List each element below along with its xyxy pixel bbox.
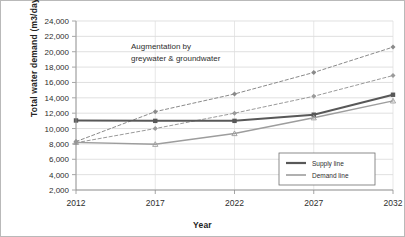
data-point-marker	[232, 91, 237, 96]
water-demand-chart: Total water demand (m3/day) 24,00022,000…	[0, 0, 405, 237]
y-tick-label: 20,000	[45, 48, 70, 57]
y-tick-label: 14,000	[45, 94, 70, 103]
chart-legend: Supply line Demand line	[279, 153, 375, 185]
y-tick-label: 16,000	[45, 78, 70, 87]
legend-frame	[279, 153, 375, 185]
data-point-marker	[153, 126, 158, 131]
x-tick-label: 2022	[225, 198, 244, 208]
y-tick-label: 24,000	[45, 17, 70, 26]
x-tick-label: 2017	[146, 198, 165, 208]
y-tick-label: 12,000	[45, 109, 70, 118]
x-tick-label: 2032	[384, 198, 403, 208]
data-point-marker	[391, 73, 396, 78]
annotation-line-2: greywater & groundwater	[131, 54, 221, 63]
plot-area: 24,00022,00020,00018,00016,00014,00012,0…	[1, 1, 405, 237]
x-axis-ticks: 20122017202220272032	[67, 198, 403, 208]
y-tick-label: 10,000	[45, 125, 70, 134]
x-axis-title: Year	[1, 220, 404, 230]
data-point-marker	[311, 70, 316, 75]
y-tick-label: 2,000	[49, 186, 70, 195]
augmentation-annotation: Augmentation by greywater & groundwater	[131, 42, 221, 63]
y-axis-ticks: 24,00022,00020,00018,00016,00014,00012,0…	[45, 17, 70, 195]
y-tick-label: 22,000	[45, 32, 70, 41]
y-tick-label: 8,000	[49, 140, 70, 149]
annotation-line-1: Augmentation by	[131, 42, 191, 51]
data-point-marker	[232, 111, 237, 116]
x-tick-label: 2012	[67, 198, 86, 208]
y-tick-label: 6,000	[49, 155, 70, 164]
legend-label-demand: Demand line	[312, 172, 349, 179]
y-tick-label: 4,000	[49, 171, 70, 180]
data-point-marker	[391, 93, 395, 97]
data-point-marker	[391, 45, 396, 50]
data-point-marker	[232, 119, 236, 123]
data-point-marker	[153, 119, 157, 123]
y-tick-label: 18,000	[45, 63, 70, 72]
x-tick-label: 2027	[304, 198, 323, 208]
legend-label-supply: Supply line	[312, 160, 344, 168]
